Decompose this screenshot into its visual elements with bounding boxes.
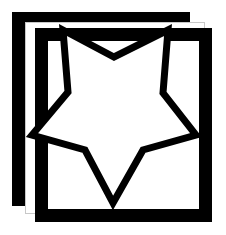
star-logo-svg: Star outline logo on offset double squar… — [0, 0, 226, 235]
artwork-canvas: Star outline logo on offset double squar… — [0, 0, 226, 235]
